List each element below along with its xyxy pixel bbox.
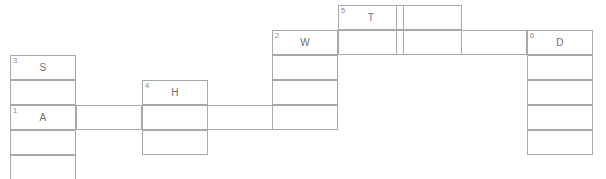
crossword-cell[interactable] [76, 105, 142, 130]
cell-letter [528, 81, 592, 104]
crossword-cell[interactable] [396, 5, 462, 30]
crossword-cell[interactable]: 1A [10, 105, 76, 130]
crossword-cell[interactable] [527, 105, 593, 130]
crossword-cell[interactable]: 3S [10, 55, 76, 80]
cell-letter: W [273, 31, 337, 54]
crossword-cell[interactable] [10, 155, 76, 179]
cell-letter [77, 106, 141, 129]
cell-letter: T [339, 6, 403, 29]
crossword-cell[interactable] [461, 30, 527, 55]
crossword-cell[interactable]: 4H [142, 80, 208, 105]
cell-letter [11, 81, 75, 104]
crossword-cell[interactable] [10, 130, 76, 155]
cell-letter [528, 131, 592, 154]
crossword-cell[interactable] [338, 30, 404, 55]
crossword-cell[interactable] [10, 80, 76, 105]
cell-letter [11, 131, 75, 154]
crossword-cell[interactable]: 5T [338, 5, 404, 30]
cell-letter: A [11, 106, 75, 129]
crossword-cell[interactable] [527, 130, 593, 155]
cell-letter [397, 31, 461, 54]
crossword-cell[interactable] [272, 105, 338, 130]
crossword-cell[interactable] [527, 55, 593, 80]
crossword-cell[interactable] [142, 105, 208, 130]
cell-letter [273, 56, 337, 79]
cell-letter [528, 56, 592, 79]
cell-letter [273, 106, 337, 129]
crossword-cell[interactable] [207, 105, 273, 130]
cell-letter [462, 31, 526, 54]
crossword-cell[interactable] [142, 130, 208, 155]
crossword-cell[interactable] [272, 80, 338, 105]
crossword-cell[interactable]: 2W [272, 30, 338, 55]
crossword-cell[interactable] [396, 30, 462, 55]
cell-letter [528, 106, 592, 129]
cell-letter: H [143, 81, 207, 104]
cell-letter [143, 106, 207, 129]
cell-letter [273, 81, 337, 104]
cell-letter [397, 6, 461, 29]
crossword-cell[interactable] [527, 80, 593, 105]
cell-letter [11, 156, 75, 179]
cell-letter [339, 31, 403, 54]
cell-letter [208, 106, 272, 129]
cell-letter [143, 131, 207, 154]
cell-letter: S [11, 56, 75, 79]
cell-letter: D [528, 31, 592, 54]
crossword-cell[interactable]: 6D [527, 30, 593, 55]
crossword-grid: 5T2W6D3S4H1A [0, 0, 606, 179]
crossword-cell[interactable] [272, 55, 338, 80]
